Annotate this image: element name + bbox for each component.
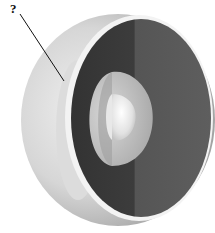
question-mark-label: ? bbox=[10, 1, 17, 17]
earth-layers-diagram: ? bbox=[0, 0, 215, 233]
earth-cutaway-illustration bbox=[0, 0, 215, 233]
